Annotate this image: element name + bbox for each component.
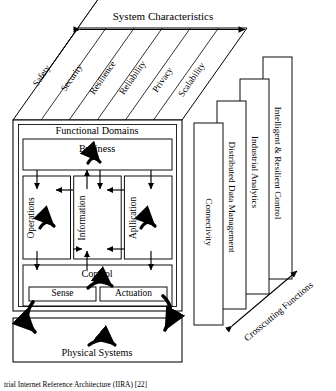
control-label: Control	[81, 269, 112, 279]
crosscutting-label-distributed-data-management: Distributed Data Management	[227, 141, 236, 252]
diagram-vector-layer	[0, 0, 336, 391]
apllication-label: Apllication	[129, 197, 138, 239]
information-label: Information	[78, 196, 87, 241]
crosscutting-label-industrial-analytics: Industrial Analytics	[250, 136, 259, 208]
system-characteristics-title: System Characteristics	[113, 11, 214, 22]
crosscutting-label-connectivity: Connectivity	[204, 198, 213, 245]
functional-domains-title: Functional Domains	[56, 126, 139, 136]
operations-label: Operations	[27, 197, 36, 238]
business-label: Business	[79, 144, 115, 154]
sense-label: Sense	[52, 289, 74, 298]
figure-iira-diagram: System Characteristics Safety Security R…	[0, 0, 336, 391]
physical-systems-label: Physical Systems	[61, 348, 132, 358]
crosscutting-label-intelligent-resilient-control: Intelligent & Resilient Control	[273, 107, 282, 220]
actuation-label: Actuation	[115, 289, 152, 298]
figure-caption: trial Internet Reference Architecture (I…	[4, 380, 147, 389]
